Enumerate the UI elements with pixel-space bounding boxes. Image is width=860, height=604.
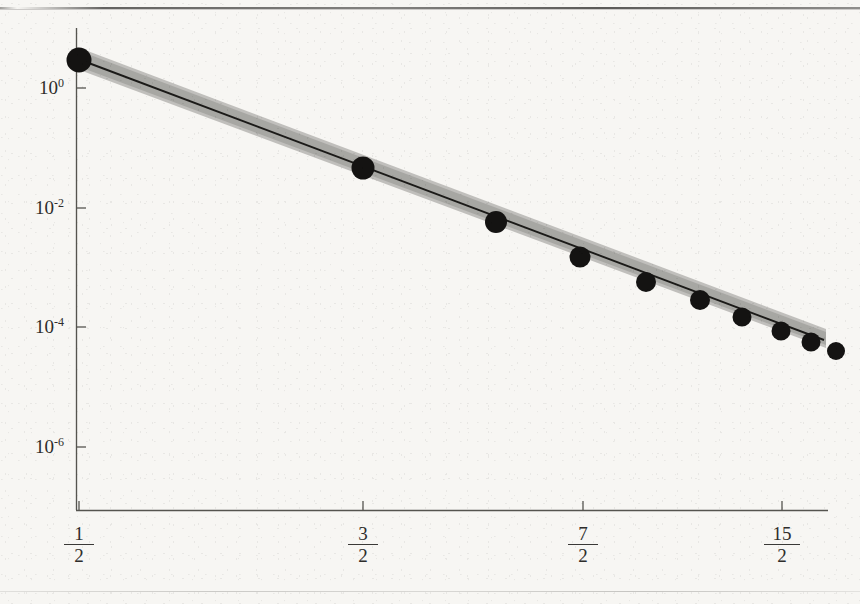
fraction-denominator: 2 <box>764 546 800 565</box>
plot-canvas <box>0 0 860 604</box>
fraction-denominator: 2 <box>64 546 94 565</box>
fraction-numerator: 1 <box>64 524 94 543</box>
data-point <box>485 211 507 233</box>
data-point <box>690 290 710 310</box>
data-point <box>827 342 845 360</box>
fraction-numerator: 7 <box>568 524 598 543</box>
log-plot-figure: 100 10-2 10-4 10-6 1 2 3 2 7 2 15 2 <box>0 0 860 604</box>
y-tick-label: 10-6 <box>8 435 64 458</box>
x-tick-label-fraction: 3 2 <box>348 524 378 566</box>
data-point <box>636 272 656 292</box>
fraction-numerator: 3 <box>348 524 378 543</box>
fraction-denominator: 2 <box>348 546 378 565</box>
data-point <box>67 48 92 73</box>
x-tick-label-fraction: 7 2 <box>568 524 598 566</box>
y-tick-label: 10-2 <box>8 196 64 219</box>
uncertainty-band <box>77 47 826 348</box>
data-point <box>802 333 821 352</box>
data-point <box>772 322 791 341</box>
data-point <box>570 247 591 268</box>
fraction-numerator: 15 <box>764 524 800 543</box>
y-tick-label: 100 <box>8 76 64 99</box>
trend-line <box>78 59 824 340</box>
data-point <box>733 308 752 327</box>
y-tick-label: 10-4 <box>8 315 64 338</box>
y-tick-marks <box>77 88 87 447</box>
data-point <box>352 157 375 180</box>
x-tick-label-fraction: 15 2 <box>764 524 800 566</box>
fraction-denominator: 2 <box>568 546 598 565</box>
x-tick-marks <box>79 501 782 511</box>
x-tick-label-fraction: 1 2 <box>64 524 94 566</box>
